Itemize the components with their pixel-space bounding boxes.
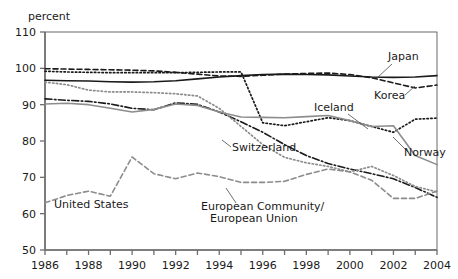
- norway-label: Norway: [404, 146, 446, 159]
- series-line-korea: [45, 69, 437, 88]
- japan-label: Japan: [387, 50, 419, 63]
- x-axis-tick-label: 2002: [379, 259, 407, 272]
- y-axis-tick-label: 110: [15, 26, 36, 39]
- line-chart-canvas: percent 5060708090100110 198619881990199…: [0, 0, 458, 279]
- y-axis-unit-label: percent: [28, 10, 71, 23]
- y-axis: 5060708090100110: [15, 26, 45, 257]
- y-axis-tick-label: 50: [22, 244, 36, 257]
- series-line-norway: [45, 103, 437, 164]
- x-axis-tick-label: 1998: [292, 259, 320, 272]
- switzerland-label: Switzerland: [232, 141, 296, 154]
- series-line-japan: [45, 74, 437, 82]
- y-axis-tick-label: 100: [15, 62, 36, 75]
- korea-label: Korea: [374, 89, 405, 102]
- united-states-label: United States: [54, 198, 129, 211]
- y-axis-tick-label: 90: [22, 99, 36, 112]
- x-axis-tick-label: 1996: [249, 259, 277, 272]
- japan-leader: [377, 64, 392, 78]
- x-axis-tick-label: 1992: [162, 259, 190, 272]
- x-axis-tick-label: 1994: [205, 259, 233, 272]
- korea-leader: [405, 86, 415, 95]
- x-axis-tick-label: 1986: [31, 259, 59, 272]
- x-axis-tick-label: 1990: [118, 259, 146, 272]
- ec-eu-label-line2: European Union: [210, 212, 298, 225]
- y-axis-tick-label: 70: [22, 171, 36, 184]
- x-axis-tick-label: 1988: [75, 259, 103, 272]
- x-axis: 1986198819901992199419961998200020022004: [31, 250, 451, 272]
- x-axis-tick-label: 2004: [423, 259, 451, 272]
- y-axis-tick-label: 60: [22, 208, 36, 221]
- x-axis-tick-label: 2000: [336, 259, 364, 272]
- iceland-label: Iceland: [314, 101, 354, 114]
- switzerland-leader: [222, 140, 231, 147]
- chart-figure: percent 5060708090100110 198619881990199…: [0, 0, 458, 279]
- y-axis-tick-label: 80: [22, 135, 36, 148]
- series-line-united-states: [45, 157, 437, 203]
